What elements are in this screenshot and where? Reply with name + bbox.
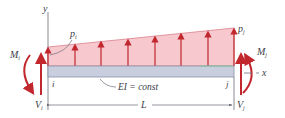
beam-element	[48, 66, 234, 77]
load-end-label: pj	[237, 23, 245, 35]
load-start-label: pi	[69, 28, 77, 40]
shear-j-label: Vj	[237, 99, 245, 111]
node-j-label: j	[225, 79, 229, 89]
y-axis-label: y	[42, 3, 48, 14]
stiffness-label: EI = const	[117, 82, 159, 92]
beam-diagram: y pi pj Vi Mi i j Vj Mj x EI = const	[0, 0, 285, 118]
beam-diagram-svg: y pi pj Vi Mi i j Vj Mj x EI = const	[0, 0, 285, 118]
moment-j-arrow-icon	[243, 58, 252, 93]
moment-i-arrow-icon	[24, 55, 31, 90]
moment-i-label: Mi	[9, 49, 20, 61]
node-i-label: i	[52, 79, 55, 89]
length-label: L	[140, 99, 147, 110]
shear-i-label: Vi	[35, 99, 43, 111]
stiffness-leader	[100, 79, 116, 87]
moment-j-label: Mj	[256, 46, 267, 58]
x-axis-label: x	[261, 67, 267, 78]
